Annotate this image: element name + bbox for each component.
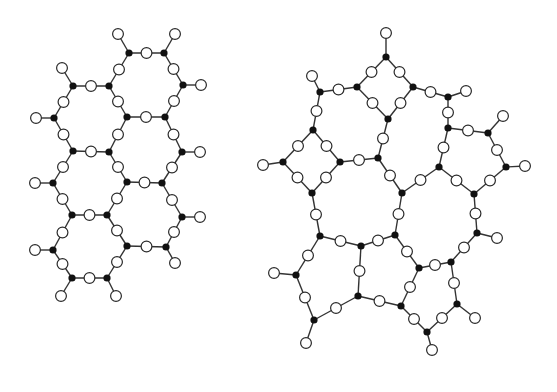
anion-node bbox=[405, 282, 416, 293]
cation-node bbox=[397, 302, 404, 309]
anion-node bbox=[331, 303, 342, 314]
anion-node bbox=[463, 125, 474, 136]
anion-node bbox=[307, 71, 318, 82]
anion-node bbox=[57, 259, 68, 270]
cation-node bbox=[398, 189, 405, 196]
anion-node bbox=[56, 291, 67, 302]
anion-node bbox=[30, 178, 41, 189]
anion-node bbox=[333, 84, 344, 95]
cation-node bbox=[123, 113, 130, 120]
anion-node bbox=[335, 236, 346, 247]
cation-node bbox=[68, 211, 75, 218]
anion-node bbox=[269, 268, 280, 279]
anion-node bbox=[114, 64, 125, 75]
cation-node bbox=[447, 258, 454, 265]
anion-node bbox=[58, 97, 69, 108]
anion-node bbox=[394, 67, 405, 78]
anion-node bbox=[354, 155, 365, 166]
anion-node bbox=[258, 160, 269, 171]
anion-node bbox=[437, 313, 448, 324]
cation-node bbox=[123, 242, 130, 249]
anion-node bbox=[303, 250, 314, 261]
anion-node bbox=[385, 170, 396, 181]
anion-node bbox=[427, 345, 438, 356]
anion-node bbox=[31, 113, 42, 124]
network-diagram bbox=[0, 0, 557, 392]
anion-nodes bbox=[30, 29, 207, 302]
cation-node bbox=[279, 158, 286, 165]
anion-node bbox=[430, 260, 441, 271]
anion-node bbox=[113, 96, 124, 107]
cation-node bbox=[316, 232, 323, 239]
cation-node bbox=[103, 274, 110, 281]
cation-node bbox=[444, 93, 451, 100]
anion-node bbox=[366, 67, 377, 78]
anion-node bbox=[311, 209, 322, 220]
anion-nodes bbox=[258, 28, 531, 356]
cation-nodes bbox=[279, 53, 509, 335]
anion-node bbox=[170, 29, 181, 40]
cation-node bbox=[178, 148, 185, 155]
anion-node bbox=[354, 266, 365, 277]
anion-node bbox=[195, 212, 206, 223]
cation-node bbox=[123, 178, 130, 185]
cation-node bbox=[178, 213, 185, 220]
anion-node bbox=[30, 245, 41, 256]
cation-node bbox=[484, 129, 491, 136]
cation-node bbox=[309, 126, 316, 133]
anion-node bbox=[373, 235, 384, 246]
cation-node bbox=[382, 53, 389, 60]
cation-node bbox=[158, 179, 165, 186]
anion-node bbox=[292, 172, 303, 183]
cation-node bbox=[161, 113, 168, 120]
anion-node bbox=[58, 162, 69, 173]
cation-node bbox=[391, 231, 398, 238]
cation-node bbox=[473, 229, 480, 236]
anion-node bbox=[393, 209, 404, 220]
cation-node bbox=[316, 88, 323, 95]
anion-node bbox=[113, 29, 124, 40]
cation-node bbox=[310, 316, 317, 323]
cation-node bbox=[354, 292, 361, 299]
anion-node bbox=[139, 177, 150, 188]
cation-node bbox=[292, 271, 299, 278]
anion-node bbox=[425, 87, 436, 98]
cation-node bbox=[453, 300, 460, 307]
cation-node bbox=[409, 83, 416, 90]
anion-node bbox=[498, 111, 509, 122]
cation-node bbox=[384, 115, 391, 122]
cation-node bbox=[68, 274, 75, 281]
anion-node bbox=[112, 257, 123, 268]
anion-node bbox=[112, 225, 123, 236]
anion-node bbox=[449, 278, 460, 289]
anion-node bbox=[402, 246, 413, 257]
anion-node bbox=[415, 175, 426, 186]
anion-node bbox=[113, 162, 124, 173]
anion-node bbox=[520, 161, 531, 172]
anion-node bbox=[111, 291, 122, 302]
cation-node bbox=[49, 246, 56, 253]
cation-node bbox=[105, 148, 112, 155]
anion-node bbox=[438, 142, 449, 153]
cation-node bbox=[308, 189, 315, 196]
anion-node bbox=[112, 193, 123, 204]
anion-node bbox=[374, 296, 385, 307]
cation-node bbox=[357, 242, 364, 249]
anion-node bbox=[84, 210, 95, 221]
cation-node bbox=[125, 49, 132, 56]
anion-node bbox=[395, 98, 406, 109]
cation-node bbox=[69, 147, 76, 154]
cation-node bbox=[353, 83, 360, 90]
anion-node bbox=[311, 106, 322, 117]
cation-node bbox=[444, 124, 451, 131]
anion-node bbox=[57, 227, 68, 238]
anion-node bbox=[451, 175, 462, 186]
anion-node bbox=[169, 96, 180, 107]
anion-node bbox=[57, 63, 68, 74]
anion-node bbox=[195, 147, 206, 158]
network-structure-figure bbox=[0, 0, 557, 392]
anion-node bbox=[170, 258, 181, 269]
anion-node bbox=[443, 107, 454, 118]
anion-node bbox=[169, 227, 180, 238]
cation-node bbox=[50, 114, 57, 121]
